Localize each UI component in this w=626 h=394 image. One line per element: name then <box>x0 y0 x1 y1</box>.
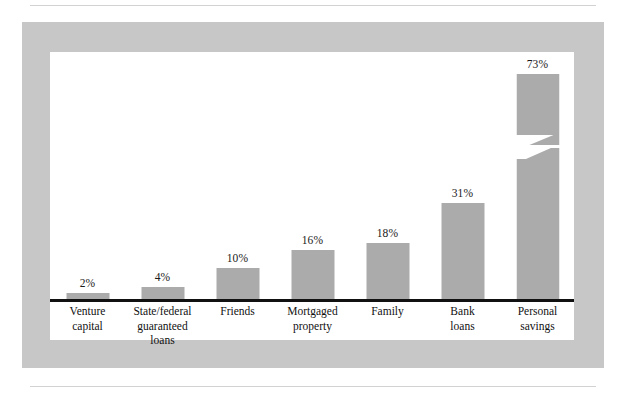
bar-column[interactable]: 18% <box>366 52 409 299</box>
category-label-line: guaranteed <box>115 319 210 334</box>
bar-slot: 73% <box>500 52 575 299</box>
bar-segment-lower <box>516 148 559 299</box>
bar-value-label: 4% <box>155 271 171 283</box>
bar-rect[interactable] <box>366 243 409 299</box>
bar-rect[interactable] <box>216 268 259 299</box>
bar-value-label: 18% <box>377 227 399 239</box>
category-label-line: property <box>265 319 360 334</box>
bar-column[interactable]: 10% <box>216 52 259 299</box>
bar-column[interactable]: 16% <box>291 52 334 299</box>
category-label-line: savings <box>490 319 585 334</box>
category-label-line: Personal <box>490 304 585 319</box>
bar-rect[interactable] <box>141 287 184 299</box>
bar-rect[interactable] <box>291 250 334 299</box>
top-divider-rule <box>30 5 596 6</box>
bar-column[interactable]: 2% <box>66 52 109 299</box>
bar-rect-broken[interactable] <box>516 74 559 299</box>
category-label-line: loans <box>115 333 210 348</box>
bar-slot: 31% <box>425 52 500 299</box>
bar-segment-upper <box>516 74 559 145</box>
bar-value-label: 10% <box>227 252 249 264</box>
bar-slot: 2% <box>50 52 125 299</box>
plot-area: 2%4%10%16%18%31%73% VenturecapitalState/… <box>50 52 574 340</box>
x-axis-baseline <box>50 299 574 302</box>
bar-column[interactable]: 4% <box>141 52 184 299</box>
figure-panel: 2%4%10%16%18%31%73% VenturecapitalState/… <box>22 22 604 368</box>
bar-column[interactable]: 73% <box>516 52 559 299</box>
bar-value-label: 16% <box>302 234 324 246</box>
bar-slot: 16% <box>275 52 350 299</box>
bar-slot: 10% <box>200 52 275 299</box>
category-label: Personalsavings <box>490 304 585 333</box>
bar-slot: 4% <box>125 52 200 299</box>
bottom-divider-rule <box>30 386 596 387</box>
chart-page: 2%4%10%16%18%31%73% VenturecapitalState/… <box>0 0 626 394</box>
bar-value-label: 2% <box>80 277 96 289</box>
bar-slot: 18% <box>350 52 425 299</box>
bars-layer: 2%4%10%16%18%31%73% <box>50 52 574 299</box>
bar-column[interactable]: 31% <box>441 52 484 299</box>
bar-value-label: 73% <box>527 58 549 70</box>
bar-rect[interactable] <box>441 203 484 299</box>
bar-value-label: 31% <box>452 187 474 199</box>
